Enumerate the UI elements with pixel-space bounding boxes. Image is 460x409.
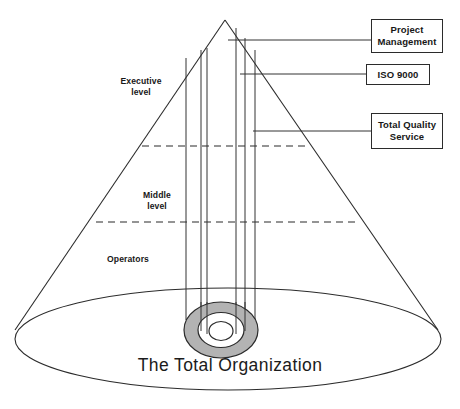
callout-label-iso-9000: ISO 9000 [375, 69, 422, 81]
callout-box-project-management: Project Management [371, 19, 443, 53]
organization-cone-diagram: Executive level Middle level Operators P… [0, 0, 460, 409]
cone-label-operators: Operators [92, 254, 164, 265]
cone-label-executive: Executive level [105, 76, 177, 98]
callout-box-iso-9000: ISO 9000 [366, 64, 430, 85]
callout-box-total-quality-service: Total Quality Service [371, 113, 443, 149]
core-ring-inner [209, 322, 233, 341]
base-caption: The Total Organization [0, 355, 460, 376]
cone-label-middle: Middle level [127, 190, 187, 212]
callout-label-project-management: Project Management [374, 24, 439, 48]
callout-label-total-quality-service: Total Quality Service [375, 119, 439, 143]
cone-left-edge [15, 20, 225, 330]
diagram-canvas [0, 0, 460, 409]
